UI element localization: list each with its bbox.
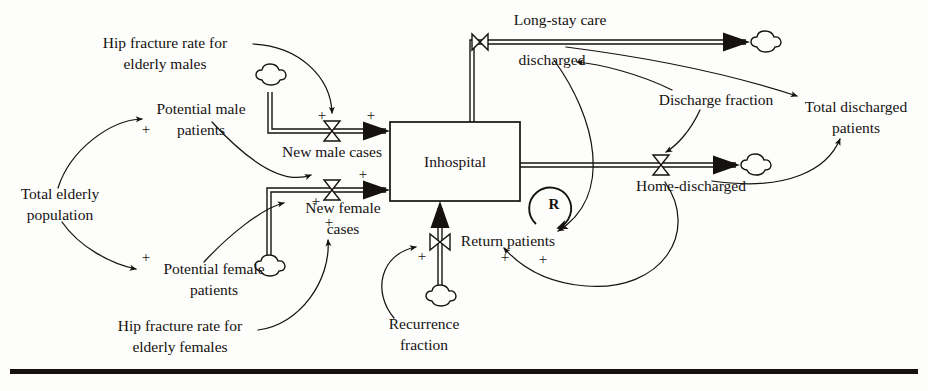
variable-total-discharged-patients: Total discharged patients (805, 98, 908, 136)
valve-long-stay-care-discharged[interactable] (472, 34, 488, 50)
stock-flow-diagram: Inhospital R (0, 0, 928, 391)
diagram-canvas: Inhospital R (0, 0, 928, 391)
variable-hip-fracture-rate-males: Hip fracture rate for elderly males (103, 34, 228, 72)
flow-label-long-stay-line2: discharged (519, 51, 586, 68)
variable-recurrence-fraction: Recurrence fraction (389, 315, 460, 353)
cloud-sink-long-stay (751, 31, 781, 52)
polarity-plus-potential-female: + (142, 249, 150, 265)
link-potential-female-to-new-female-cases (204, 203, 284, 262)
variable-hip-fracture-rate-females-line2: elderly females (132, 338, 227, 355)
link-long-stay-to-total-discharged (566, 47, 797, 96)
variable-potential-female-patients-line2: patients (190, 281, 238, 298)
flow-label-new-male-cases: New male cases (282, 143, 382, 160)
polarity-plus-return-left: + (501, 249, 509, 265)
link-recurrence-to-return-patients (382, 247, 416, 318)
bottom-divider (10, 369, 918, 374)
link-elderly-to-potential-male (58, 119, 142, 188)
reinforcing-loop-label: R (549, 196, 560, 212)
variable-potential-male-patients-line2: patients (177, 121, 225, 138)
variable-discharge-fraction: Discharge fraction (659, 91, 774, 108)
variable-total-elderly-population: Total elderly population (21, 185, 100, 223)
flow-label-return-patients: Return patients (461, 232, 555, 249)
link-elderly-to-potential-female (62, 222, 136, 269)
variable-recurrence-fraction-line1: Recurrence (389, 315, 460, 332)
variable-hip-fracture-rate-males-line2: elderly males (123, 55, 206, 72)
polarity-plus-female-valve: + (359, 166, 367, 182)
flow-label-new-female-cases-line1: New femalecases (305, 199, 380, 237)
polarity-plus-recurrence: + (418, 248, 426, 264)
stock-inhospital-label: Inhospital (424, 153, 486, 170)
polarity-plus-male-inflow: + (367, 107, 375, 123)
polarity-plus-potential-male: + (142, 121, 150, 137)
variable-recurrence-fraction-line2: fraction (400, 336, 448, 353)
variable-potential-female-patients-line1: Potential female (163, 260, 264, 277)
variable-total-elderly-population-line2: population (27, 206, 94, 223)
cloud-sink-home-discharged (741, 154, 771, 175)
variable-potential-male-patients-line1: Potential male (156, 100, 245, 117)
link-discharge-fraction-to-long-stay (577, 62, 672, 90)
flow-pipe-home-discharged (520, 156, 740, 175)
cloud-source-recurrence (426, 285, 456, 306)
flow-label-home-discharged: Home-discharged (636, 177, 746, 194)
variable-total-discharged-patients-line2: patients (832, 119, 880, 136)
variable-hip-fracture-rate-females-line1: Hip fracture rate for (118, 317, 243, 334)
polarity-plus-male-valve: + (318, 107, 326, 123)
flow-label-long-stay-line1: Long-stay care (514, 11, 607, 28)
reinforcing-loop-marker: R (529, 188, 571, 228)
variable-potential-male-patients: Potential male patients (156, 100, 245, 138)
variable-total-elderly-population-line1: Total elderly (21, 185, 100, 202)
flow-label-long-stay-care-discharged: Long-stay care discharged (514, 11, 607, 68)
variable-total-discharged-patients-line1: Total discharged (805, 98, 908, 115)
flow-pipe-long-stay-care-discharged (472, 33, 750, 123)
flow-label-new-female-cases: New femalecases (305, 199, 380, 237)
variable-potential-female-patients: Potential female patients (163, 260, 264, 298)
polarity-plus-return-right: + (539, 251, 547, 267)
link-discharge-fraction-to-home-discharged (666, 110, 700, 152)
variable-hip-fracture-rate-males-line1: Hip fracture rate for (103, 34, 228, 51)
cloud-source-male (256, 64, 286, 85)
link-long-stay-to-return-patients (554, 60, 593, 231)
variable-hip-fracture-rate-females: Hip fracture rate for elderly females (118, 317, 243, 355)
